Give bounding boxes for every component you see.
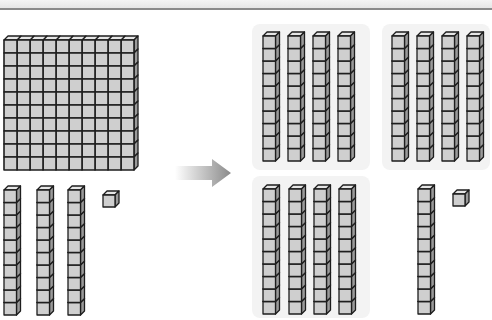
left-ten-rods [4, 186, 85, 315]
arrow-right-icon [175, 159, 231, 187]
right-unit-cube [453, 190, 469, 206]
left-unit-cube [103, 191, 119, 207]
base-ten-diagram [0, 0, 492, 320]
hundred-flat [4, 36, 138, 170]
right-ten-rods [263, 32, 484, 314]
